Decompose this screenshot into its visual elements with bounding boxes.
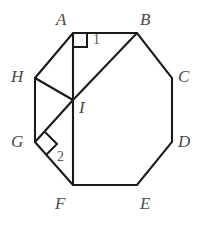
octagon-outline <box>35 33 172 185</box>
octagon-diagram-svg <box>0 0 217 228</box>
vertex-label-D: D <box>178 133 190 150</box>
point-label-I: I <box>79 99 85 116</box>
vertex-label-E: E <box>140 195 150 212</box>
vertex-label-F: F <box>55 195 65 212</box>
vertex-label-H: H <box>11 68 23 85</box>
segment-IB <box>73 33 137 100</box>
vertex-label-G: G <box>11 133 23 150</box>
right-angle-mark-at-A <box>73 33 87 47</box>
right-angle-mark-at-G <box>45 132 57 155</box>
vertex-label-A: A <box>56 11 66 28</box>
vertex-label-C: C <box>178 68 189 85</box>
segment-HI <box>35 78 73 100</box>
segment-IG <box>35 100 73 142</box>
angle-label-1: 1 <box>93 33 100 47</box>
angle-label-2: 2 <box>57 150 64 164</box>
geometry-figure: A B C D E F G H I 1 2 <box>0 0 217 228</box>
vertex-label-B: B <box>140 11 150 28</box>
